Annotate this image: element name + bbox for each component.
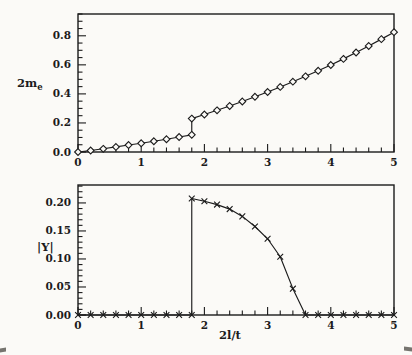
top-x-tick-label: 2	[201, 156, 208, 168]
diamond-marker	[100, 145, 107, 152]
top-y-tick-label: 0.8	[53, 29, 71, 41]
bottom-x-tick-label: 1	[138, 319, 145, 331]
diamond-marker	[302, 73, 309, 80]
diamond-marker	[353, 49, 360, 56]
top-panel-y-axis-label: 2me	[17, 77, 43, 93]
diamond-marker	[378, 36, 385, 43]
top-y-tick-label: 0.0	[53, 146, 71, 158]
diamond-marker	[340, 55, 347, 62]
bottom-panel-y-axis-label: |Y|	[37, 241, 54, 254]
top-data-markers	[75, 29, 398, 156]
bottom-panel-frame	[78, 185, 394, 315]
diamond-marker	[214, 107, 221, 114]
scan-artifact-bottom-right	[404, 347, 412, 352]
top-x-tick-label: 3	[264, 156, 271, 168]
top-y-label-main: 2m	[17, 76, 37, 90]
diamond-marker	[138, 140, 145, 147]
top-y-tick-label: 0.4	[53, 87, 71, 99]
x-marker	[239, 213, 245, 219]
bottom-y-tick-label: 0.15	[45, 224, 71, 236]
top-x-tick-label: 5	[390, 156, 397, 168]
bottom-data-line	[78, 198, 394, 315]
diamond-marker	[252, 93, 259, 100]
top-panel-frame	[78, 14, 394, 152]
top-y-label-subscript: e	[37, 82, 42, 92]
diamond-marker	[226, 103, 233, 110]
diamond-marker	[150, 138, 157, 145]
diamond-marker	[391, 29, 398, 36]
bottom-x-tick-label: 4	[327, 319, 334, 331]
x-marker	[252, 224, 258, 230]
diamond-marker	[125, 142, 132, 149]
x-axis-label: 2l/t	[205, 329, 255, 342]
diamond-marker	[201, 111, 208, 118]
x-marker	[265, 236, 271, 242]
bottom-y-tick-label: 0.05	[45, 280, 71, 292]
diamond-marker	[188, 115, 195, 122]
top-data-line	[78, 32, 394, 152]
diamond-marker	[176, 134, 183, 141]
top-x-tick-label: 4	[327, 156, 334, 168]
scan-artifact-bottom-left	[0, 348, 6, 353]
top-panel-ticks	[78, 14, 394, 152]
top-panel: 0123450.00.20.40.60.8	[53, 14, 398, 168]
top-y-tick-label: 0.2	[53, 116, 71, 128]
diamond-marker	[365, 43, 372, 50]
diamond-marker	[75, 149, 82, 156]
top-x-tick-label: 0	[74, 156, 81, 168]
bottom-panel: 0123450.000.050.100.150.20	[45, 185, 397, 331]
diamond-marker	[315, 67, 322, 74]
diamond-marker	[277, 84, 284, 91]
diamond-marker	[163, 136, 170, 143]
x-marker	[290, 286, 296, 292]
diamond-marker	[327, 62, 334, 69]
bottom-x-tick-label: 0	[74, 319, 81, 331]
diamond-marker	[289, 78, 296, 85]
bottom-panel-tick-labels: 0123450.000.050.100.150.20	[45, 196, 397, 330]
x-marker	[277, 254, 283, 260]
diamond-marker	[113, 144, 120, 151]
bottom-y-tick-label: 0.00	[45, 309, 71, 321]
two-panel-physics-plot: 0123450.00.20.40.60.80123450.000.050.100…	[0, 0, 412, 355]
diamond-marker	[264, 89, 271, 96]
bottom-x-tick-label: 3	[264, 319, 271, 331]
x-marker	[227, 206, 233, 212]
bottom-data-markers	[75, 196, 397, 318]
bottom-x-tick-label: 5	[390, 319, 397, 331]
bottom-y-tick-label: 0.10	[45, 252, 71, 264]
top-y-tick-label: 0.6	[53, 58, 71, 70]
diamond-marker	[87, 147, 94, 154]
diamond-marker	[239, 98, 246, 105]
top-x-tick-label: 1	[138, 156, 145, 168]
diamond-marker	[188, 131, 195, 138]
dual-panel-chart-canvas: 0123450.00.20.40.60.80123450.000.050.100…	[0, 0, 412, 355]
bottom-panel-ticks	[78, 186, 394, 315]
bottom-y-tick-label: 0.20	[45, 196, 71, 208]
